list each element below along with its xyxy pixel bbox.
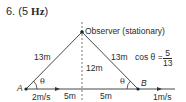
angle-left-label: θ [40, 78, 45, 86]
angle-right-label: θ [120, 78, 125, 86]
height-label: 12m [86, 64, 103, 73]
point-a-dot [24, 87, 27, 90]
side-right [82, 32, 138, 89]
cos-fraction: 5 13 [163, 49, 172, 67]
point-b-dot [136, 87, 139, 90]
base-left-label: 5m [64, 92, 76, 101]
speed-a-label: 2m/s [32, 93, 50, 102]
speed-b-label: 1m/s [153, 93, 171, 102]
velocity-arrow-a-icon [55, 87, 60, 91]
side-right-label: 13m [111, 53, 128, 62]
side-left-label: 13m [34, 53, 51, 62]
angle-arc-right-icon [127, 81, 131, 89]
angle-arc-left-icon [34, 81, 38, 89]
cos-denominator: 13 [163, 59, 172, 68]
base-right-label: 5m [100, 92, 112, 101]
cos-label: cos θ = [135, 53, 163, 62]
point-b-label: B [141, 79, 147, 88]
velocity-arrow-b-icon [157, 87, 162, 91]
observer-label: Observer (stationary) [85, 27, 165, 36]
doppler-triangle-diagram [0, 0, 186, 102]
point-a-label: A [17, 84, 23, 93]
observer-dot [80, 30, 84, 34]
